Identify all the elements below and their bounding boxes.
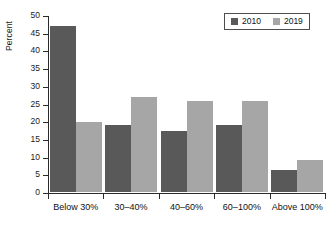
- bar-2010: [105, 125, 131, 192]
- y-axis-tick: 40: [43, 51, 48, 52]
- legend-label-2019: 2019: [284, 16, 303, 26]
- y-axis-tick: 35: [43, 69, 48, 70]
- y-axis-tick-label: 5: [35, 169, 40, 179]
- bar-chart: Percent 05101520253035404550 Below 30%30…: [0, 0, 335, 231]
- legend-item-2010: 2010: [231, 16, 261, 26]
- x-axis-tick: [159, 194, 160, 199]
- x-axis-tick: [103, 194, 104, 199]
- bar-2010: [271, 170, 297, 192]
- legend: 2010 2019: [224, 13, 310, 30]
- y-axis-tick: 5: [43, 175, 48, 176]
- y-axis-tick-label: 20: [31, 116, 40, 126]
- bar-2010: [161, 131, 187, 192]
- y-axis-tick-label: 25: [31, 99, 40, 109]
- legend-swatch-2010: [231, 18, 238, 25]
- legend-swatch-2019: [273, 18, 280, 25]
- y-axis-tick: 10: [43, 158, 48, 159]
- x-axis-line: [48, 193, 326, 194]
- y-axis-tick: 15: [43, 140, 48, 141]
- bar-group: [271, 15, 323, 192]
- y-axis-tick-label: 40: [31, 45, 40, 55]
- bar-2019: [297, 160, 323, 192]
- bar-group: [161, 15, 213, 192]
- legend-item-2019: 2019: [273, 16, 303, 26]
- bar-2019: [76, 122, 102, 192]
- bar-2019: [187, 101, 213, 192]
- y-axis-title: Percent: [0, 14, 31, 58]
- plot-area: 05101520253035404550 Below 30%30–40%40–6…: [48, 16, 325, 193]
- y-axis-tick-label: 35: [31, 63, 40, 73]
- y-axis-tick-label: 15: [31, 134, 40, 144]
- x-axis-tick: [270, 194, 271, 199]
- x-axis-category-label: Below 30%: [48, 202, 103, 212]
- y-axis-tick-label: 45: [31, 28, 40, 38]
- x-axis-category-label: 60–100%: [214, 202, 269, 212]
- x-axis-tick: [214, 194, 215, 199]
- y-axis-tick-label: 50: [31, 10, 40, 20]
- bar-2010: [50, 26, 76, 192]
- bar-group: [50, 15, 102, 192]
- bar-group: [216, 15, 268, 192]
- x-axis-category-label: Above 100%: [270, 202, 325, 212]
- y-axis-tick: 25: [43, 105, 48, 106]
- bar-2010: [216, 125, 242, 192]
- x-axis-category-label: 30–40%: [103, 202, 158, 212]
- y-axis-tick: 20: [43, 122, 48, 123]
- y-axis-tick: 50: [43, 16, 48, 17]
- y-axis-tick-label: 30: [31, 81, 40, 91]
- legend-label-2010: 2010: [242, 16, 261, 26]
- bar-2019: [131, 97, 157, 192]
- x-axis-category-label: 40–60%: [159, 202, 214, 212]
- x-axis-tick: [48, 194, 49, 199]
- y-axis-tick: 45: [43, 34, 48, 35]
- bar-2019: [242, 101, 268, 192]
- y-axis-tick: 30: [43, 87, 48, 88]
- bar-group: [105, 15, 157, 192]
- y-axis-tick-label: 10: [31, 152, 40, 162]
- x-axis-tick: [325, 194, 326, 199]
- y-axis-tick-label: 0: [35, 187, 40, 197]
